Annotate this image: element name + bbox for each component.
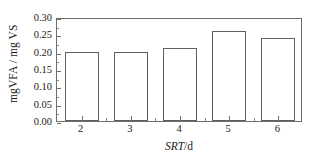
y-axis-tick-labels: 0.000.050.100.150.200.250.30 bbox=[22, 18, 52, 122]
x-tick-mark bbox=[278, 116, 279, 121]
x-minor-tick-mark bbox=[155, 118, 156, 121]
bar bbox=[212, 31, 246, 121]
x-tick-label: 2 bbox=[78, 124, 83, 135]
y-tick-mark bbox=[57, 36, 61, 37]
y-tick-mark bbox=[57, 71, 61, 72]
y-tick-mark bbox=[57, 19, 61, 20]
y-axis-title-text: mgVFA / mg VS bbox=[7, 25, 19, 104]
x-tick-label: 6 bbox=[275, 124, 280, 135]
y-tick-label: 0.30 bbox=[34, 13, 52, 24]
y-minor-tick-mark bbox=[57, 97, 59, 98]
y-tick-label: 0.15 bbox=[34, 65, 52, 76]
x-axis-title: SRT/d bbox=[56, 141, 302, 153]
bar-chart-figure: mgVFA / mg VS 0.000.050.100.150.200.250.… bbox=[0, 0, 316, 165]
plot-area bbox=[56, 18, 302, 122]
y-tick-label: 0.10 bbox=[34, 82, 52, 93]
y-minor-tick-mark bbox=[57, 114, 59, 115]
y-tick-mark bbox=[57, 106, 61, 107]
x-axis-title-italic: SRT bbox=[165, 140, 184, 152]
x-tick-mark bbox=[82, 116, 83, 121]
x-tick-label: 3 bbox=[127, 124, 132, 135]
y-tick-label: 0.05 bbox=[34, 99, 52, 110]
y-tick-label: 0.25 bbox=[34, 30, 52, 41]
x-minor-tick-mark bbox=[205, 118, 206, 121]
x-minor-tick-mark bbox=[106, 118, 107, 121]
bar bbox=[261, 38, 295, 121]
x-tick-mark bbox=[229, 116, 230, 121]
x-tick-label: 4 bbox=[176, 124, 181, 135]
y-minor-tick-mark bbox=[57, 45, 59, 46]
y-minor-tick-mark bbox=[57, 80, 59, 81]
bar bbox=[163, 48, 197, 121]
y-minor-tick-mark bbox=[57, 28, 59, 29]
x-axis-tick-labels: 23456 bbox=[56, 124, 302, 140]
y-minor-tick-mark bbox=[57, 62, 59, 63]
bar bbox=[65, 52, 99, 121]
bar bbox=[114, 52, 148, 121]
x-tick-mark bbox=[180, 116, 181, 121]
plot-inner bbox=[57, 19, 301, 121]
y-tick-label: 0.00 bbox=[34, 117, 52, 128]
x-axis-title-rest: /d bbox=[184, 140, 193, 152]
y-tick-label: 0.20 bbox=[34, 47, 52, 58]
x-minor-tick-mark bbox=[254, 118, 255, 121]
x-tick-mark bbox=[131, 116, 132, 121]
y-tick-mark bbox=[57, 88, 61, 89]
y-tick-mark bbox=[57, 54, 61, 55]
x-tick-label: 5 bbox=[226, 124, 231, 135]
